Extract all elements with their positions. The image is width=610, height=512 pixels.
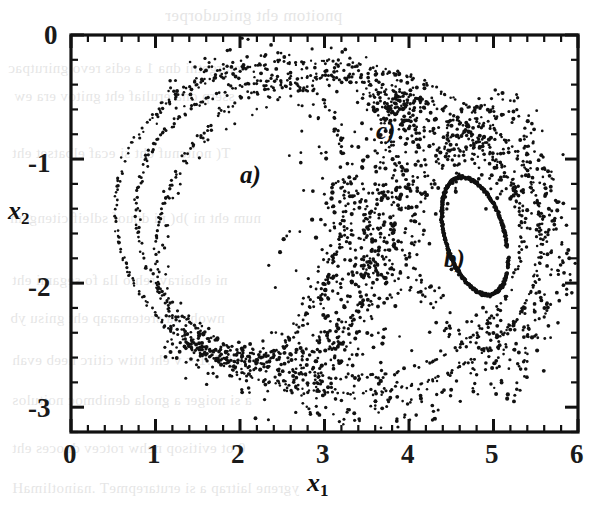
plot-canvas [0,0,610,512]
y-tick-label-1: -1 [28,150,51,177]
x-tick-label-6: 6 [570,441,584,468]
x-tick-label-0: 0 [63,441,77,468]
x-tick-label-3: 3 [316,441,330,468]
annotation-label-b: b) [444,246,465,271]
x-tick-label-5: 5 [485,441,499,468]
y-axis-title-subscript: 2 [21,209,30,228]
y-tick-label-2: -2 [28,274,51,301]
y-axis-title-symbol: x [8,196,21,225]
y-axis-title: x2 [8,198,30,224]
x-tick-label-2: 2 [231,441,245,468]
y-tick-label-0: 0 [44,22,58,49]
poincare-section-figure: 0 -1 -2 -3 0 1 2 3 4 5 6 x2 x1 a) b) c) [0,0,610,512]
annotation-label-a: a) [240,162,261,187]
x-axis-title-symbol: x [307,468,320,497]
scatter-points [113,37,577,430]
y-tick-label-3: -3 [28,395,51,422]
x-tick-label-4: 4 [401,441,415,468]
x-tick-label-1: 1 [147,441,161,468]
x-axis-title: x1 [307,470,329,496]
x-axis-title-subscript: 1 [320,481,329,500]
annotation-label-c: c) [376,118,395,143]
